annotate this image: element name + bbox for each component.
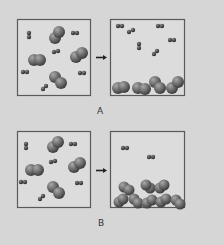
right-arrow-icon [96,55,107,60]
right-arrow-icon [96,168,107,173]
panel-a-label: A [97,106,103,116]
panel-b-label: B [98,218,104,228]
large-molecule [28,54,46,66]
large-molecule [25,164,44,176]
panel-b [18,132,186,210]
diagram-canvas [0,0,224,245]
large-molecule [132,82,151,95]
panel-a [18,20,185,96]
